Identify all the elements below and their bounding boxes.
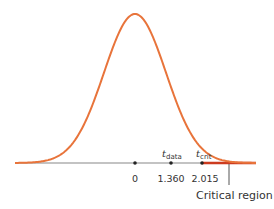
tick-label-data: 1.360	[157, 173, 184, 184]
tick-label-crit: 2.015	[191, 173, 218, 184]
t-distribution-chart: 0 1.360 2.015 tdata tcrit Critical regio…	[0, 0, 274, 209]
density-curve	[15, 14, 256, 163]
tick-dot-0	[133, 161, 137, 165]
tick-dot-crit	[200, 161, 204, 165]
tick-label-0: 0	[132, 173, 138, 184]
critical-region-label: Critical region	[196, 189, 273, 202]
tick-dot-data	[169, 161, 173, 165]
t-data-label: tdata	[162, 148, 182, 161]
